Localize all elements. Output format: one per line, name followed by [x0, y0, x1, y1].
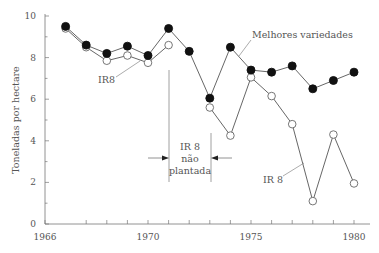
- yield-chart: 02468101966197019751980 Toneladas por he…: [0, 0, 379, 253]
- open-point-marker: [227, 132, 235, 140]
- filled-point-marker: [185, 47, 193, 55]
- x-tick-label: 1975: [240, 232, 263, 242]
- label-ir8-lower: IR 8: [263, 174, 283, 185]
- open-point-marker: [165, 41, 173, 49]
- series-group: [62, 22, 358, 205]
- filled-point-marker: [144, 52, 152, 60]
- arrow-left-icon: [211, 156, 218, 161]
- gap-label-line1: IR 8: [180, 141, 200, 152]
- filled-point-marker: [288, 62, 296, 70]
- filled-point-marker: [268, 68, 276, 76]
- open-point-marker: [330, 131, 338, 139]
- gap-label-line3: plantada: [169, 165, 211, 176]
- open-point-marker: [124, 52, 132, 60]
- filled-point-marker: [123, 42, 131, 50]
- filled-point-marker: [206, 94, 214, 102]
- open-point-marker: [247, 74, 255, 82]
- filled-point-marker: [103, 49, 111, 57]
- y-tick-label: 2: [30, 177, 36, 187]
- gap-label-line2: não: [181, 153, 199, 164]
- open-point-marker: [288, 120, 296, 128]
- open-point-marker: [206, 104, 214, 112]
- open-point-marker: [268, 92, 276, 100]
- y-tick-label: 0: [30, 219, 36, 229]
- filled-point-marker: [247, 66, 255, 74]
- open-point-marker: [103, 57, 111, 65]
- label-melhores-variedades: Melhores variedades: [252, 29, 353, 40]
- filled-point-marker: [62, 22, 70, 30]
- open-point-marker: [144, 59, 152, 67]
- y-axis-label: Toneladas por hectare: [10, 66, 21, 174]
- axes: 02468101966197019751980: [25, 11, 370, 242]
- x-tick-label: 1970: [137, 232, 160, 242]
- filled-point-marker: [82, 41, 90, 49]
- arrow-right-icon: [162, 156, 169, 161]
- x-tick-label: 1966: [34, 232, 57, 242]
- y-tick-label: 8: [30, 53, 36, 63]
- x-tick-label: 1980: [343, 232, 366, 242]
- filled-point-marker: [165, 24, 173, 32]
- series-labels: Melhores variedades IR8 IR 8: [98, 29, 353, 185]
- open-point-marker: [350, 180, 358, 188]
- ir8-not-planted-annotation: IR 8 não plantada: [148, 70, 232, 182]
- filled-point-marker: [329, 76, 337, 84]
- y-tick-label: 4: [30, 136, 36, 146]
- y-tick-label: 6: [30, 94, 36, 104]
- label-ir8-upper: IR8: [98, 74, 115, 85]
- ir8-line: [66, 28, 169, 62]
- filled-point-marker: [350, 68, 358, 76]
- filled-point-marker: [309, 85, 317, 93]
- open-point-marker: [309, 197, 317, 205]
- filled-point-marker: [226, 43, 234, 51]
- y-tick-label: 10: [25, 11, 37, 21]
